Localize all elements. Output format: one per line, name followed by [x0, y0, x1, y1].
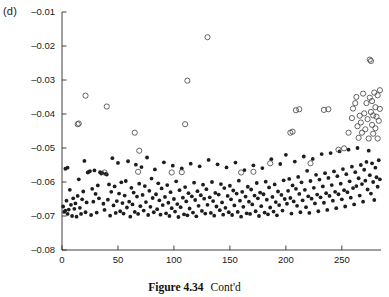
data-point-filled [194, 214, 198, 218]
data-point-filled [351, 186, 355, 190]
data-point-open [372, 90, 377, 95]
data-point-filled [254, 209, 258, 213]
data-point-filled [230, 213, 234, 217]
data-point-filled [138, 204, 142, 208]
data-point-filled [125, 206, 129, 210]
data-point-filled [279, 193, 283, 197]
data-point-filled [357, 176, 361, 180]
data-point-filled [184, 199, 188, 203]
data-point-filled [163, 195, 167, 199]
data-point-filled [326, 176, 330, 180]
data-point-open [364, 101, 369, 106]
data-point-filled [171, 164, 175, 168]
data-point-filled [374, 166, 378, 170]
data-point-filled [315, 193, 319, 197]
data-point-filled [71, 196, 75, 200]
data-point-filled [282, 178, 286, 182]
data-point-filled [324, 191, 328, 195]
data-point-open [375, 93, 380, 98]
data-point-filled [74, 202, 78, 206]
data-point-filled [311, 157, 315, 161]
data-point-filled [322, 201, 326, 205]
data-point-filled [109, 190, 113, 194]
data-point-filled [210, 180, 214, 184]
data-point-filled [312, 186, 316, 190]
data-point-open [377, 88, 382, 93]
data-point-filled [65, 199, 69, 203]
data-point-filled [107, 182, 111, 186]
data-point-filled [115, 199, 119, 203]
data-point-filled [196, 189, 200, 193]
data-point-filled [93, 169, 97, 173]
data-point-filled [290, 212, 294, 216]
data-point-filled [350, 165, 354, 169]
data-point-open [373, 126, 378, 131]
data-point-filled [144, 200, 148, 204]
data-point-filled [370, 161, 374, 165]
data-point-filled [103, 208, 107, 212]
data-point-filled [121, 201, 125, 205]
data-point-open [251, 169, 256, 174]
data-point-open [362, 111, 367, 116]
data-point-filled [307, 211, 311, 215]
data-point-filled [245, 211, 249, 215]
data-point-filled [112, 204, 116, 208]
data-point-open [104, 104, 109, 109]
data-point-open [366, 136, 371, 141]
data-point-filled [212, 214, 216, 218]
data-point-filled [215, 205, 219, 209]
data-point-filled [220, 201, 224, 205]
data-point-filled [170, 206, 174, 210]
data-point-open [238, 170, 243, 175]
data-point-filled [378, 177, 382, 181]
data-point-open [356, 135, 361, 140]
data-point-filled [226, 194, 230, 198]
data-point-filled [90, 187, 94, 191]
data-point-filled [172, 197, 176, 201]
data-point-filled [310, 197, 314, 201]
x-tick-label: 200 [278, 254, 294, 265]
data-point-filled [207, 158, 211, 162]
data-point-open [353, 101, 358, 106]
data-point-filled [190, 194, 194, 198]
y-tick-label: –0.04 [31, 108, 55, 119]
data-point-filled [188, 207, 192, 211]
data-point-filled [264, 180, 268, 184]
data-point-filled [183, 185, 187, 189]
data-point-open [349, 115, 354, 120]
data-point-filled [67, 208, 71, 212]
data-point-filled [113, 185, 117, 189]
data-point-filled [296, 175, 300, 179]
data-point-open [350, 106, 355, 111]
data-point-filled [79, 212, 83, 216]
data-point-filled [198, 164, 202, 168]
data-point-filled [237, 179, 241, 183]
data-point-filled [278, 162, 282, 166]
data-point-filled [366, 188, 370, 192]
data-point-filled [314, 173, 318, 177]
data-point-filled [68, 188, 72, 192]
data-point-filled [102, 202, 106, 206]
data-point-open [169, 170, 174, 175]
data-point-filled [275, 213, 279, 217]
data-point-filled [368, 173, 372, 177]
data-point-filled [203, 212, 207, 216]
data-point-open [183, 122, 188, 127]
data-point-filled [228, 184, 232, 188]
data-point-filled [318, 178, 322, 182]
data-point-filled [359, 163, 363, 167]
data-point-filled [320, 152, 324, 156]
data-point-filled [262, 192, 266, 196]
data-point-filled [365, 160, 369, 164]
data-point-filled [145, 156, 149, 160]
y-tick-label: –0.06 [31, 176, 55, 187]
data-point-filled [134, 163, 138, 167]
data-point-filled [301, 198, 305, 202]
data-point-filled [136, 212, 140, 216]
data-point-filled [173, 210, 177, 214]
data-point-open [365, 117, 370, 122]
data-point-filled [271, 195, 275, 199]
data-point-filled [131, 203, 135, 207]
data-point-filled [305, 169, 309, 173]
data-point-filled [77, 177, 81, 181]
